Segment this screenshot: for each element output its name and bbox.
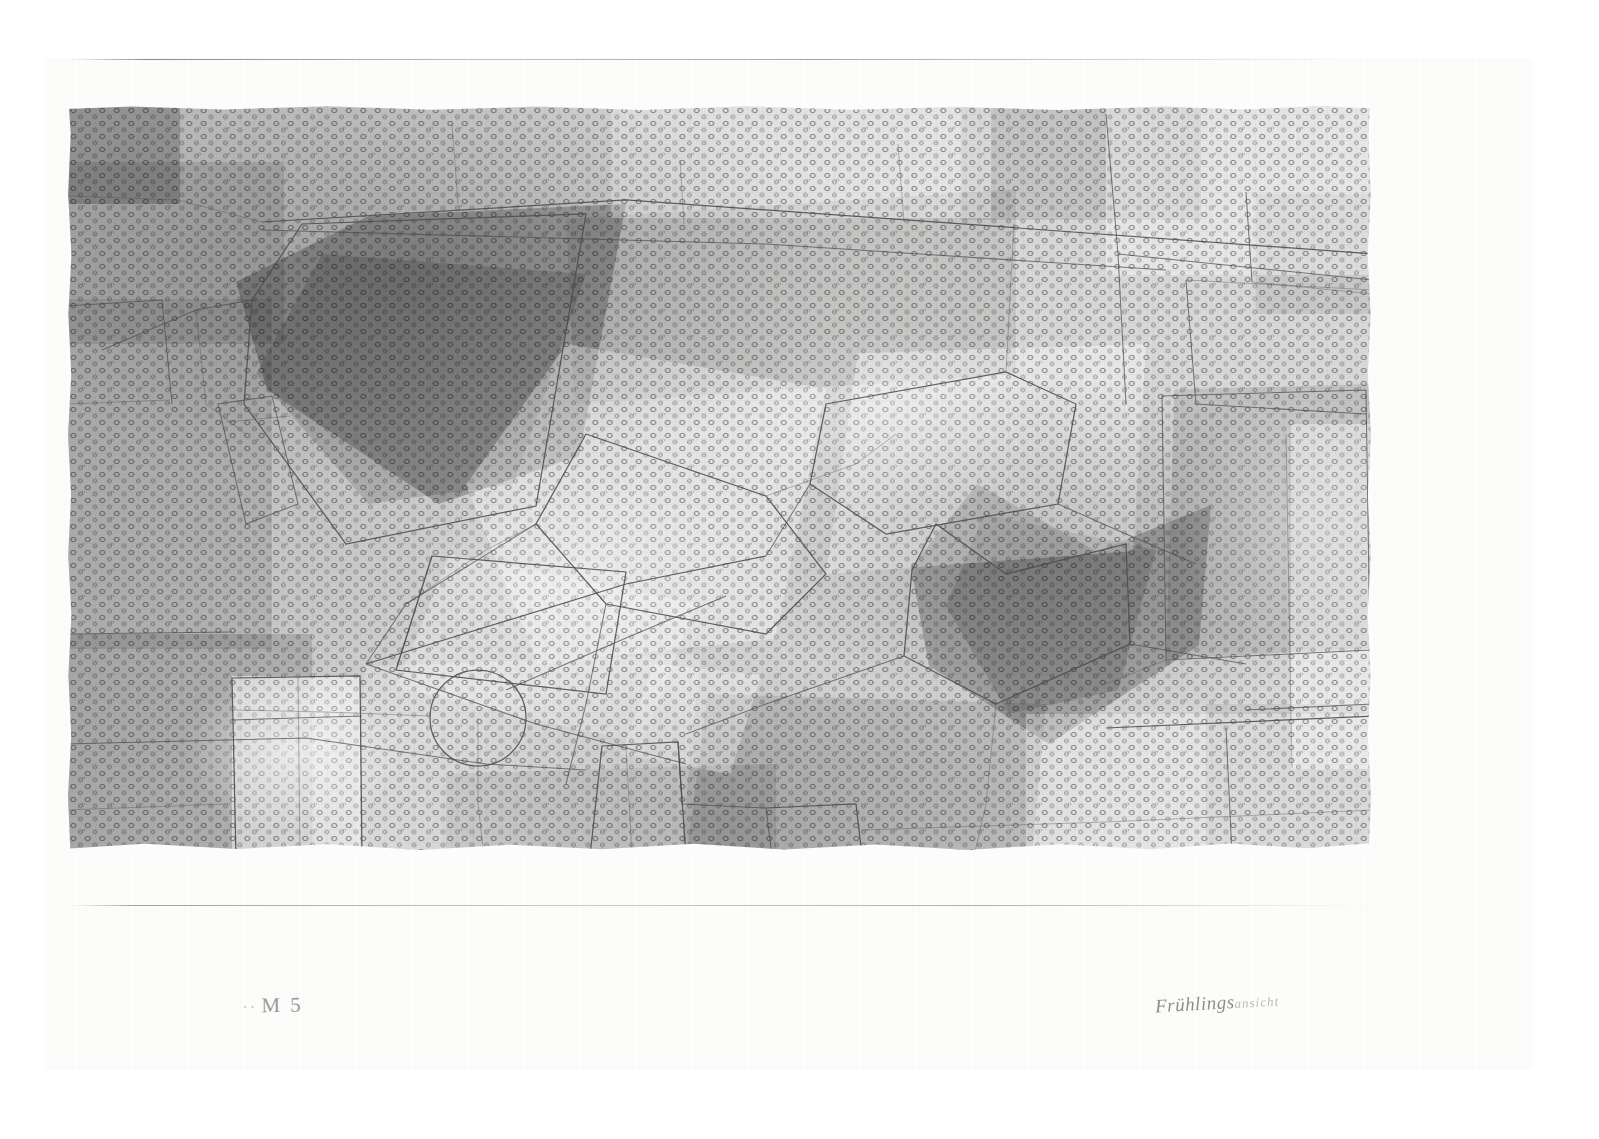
bottom-border-rule	[70, 905, 1370, 906]
inscription-left: ··M 5	[243, 992, 304, 1018]
page-root: ··M 5 Frühlingsansicht	[0, 0, 1599, 1139]
inscription-left-mark: ··	[243, 999, 258, 1014]
facet-bottom-right-light	[1026, 714, 1373, 856]
facet-left-mid-grey	[66, 299, 272, 649]
inscription-left-text: M 5	[261, 992, 303, 1017]
artwork-plate	[66, 104, 1373, 856]
facet-right-upper-light	[1106, 104, 1373, 275]
top-border-rule	[70, 59, 1360, 60]
inscription-right-text: Frühlings	[1154, 991, 1235, 1016]
facet-bright-dot-panel-top	[232, 676, 360, 718]
inscription-right-tail: ansicht	[1234, 994, 1279, 1011]
facet-top-centre-pale	[611, 104, 991, 218]
facet-right-centre-pale	[826, 344, 1146, 574]
